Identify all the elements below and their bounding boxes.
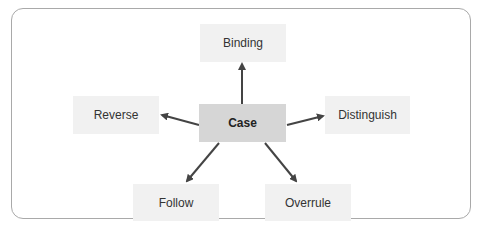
node-reverse: Reverse	[73, 96, 159, 134]
arrow-to-reverse	[162, 115, 199, 125]
node-overrule: Overrule	[265, 184, 351, 221]
node-distinguish-label: Distinguish	[338, 108, 397, 122]
node-distinguish: Distinguish	[325, 96, 410, 134]
node-reverse-label: Reverse	[94, 108, 139, 122]
node-case-label: Case	[228, 116, 257, 130]
node-overrule-label: Overrule	[285, 196, 331, 210]
arrow-to-follow	[187, 143, 219, 181]
node-follow-label: Follow	[159, 196, 194, 210]
arrow-to-distinguish	[287, 116, 323, 125]
node-follow: Follow	[133, 184, 219, 221]
node-binding: Binding	[200, 24, 286, 62]
node-case-center: Case	[199, 104, 286, 142]
node-binding-label: Binding	[223, 36, 263, 50]
arrow-to-overrule	[265, 143, 296, 181]
